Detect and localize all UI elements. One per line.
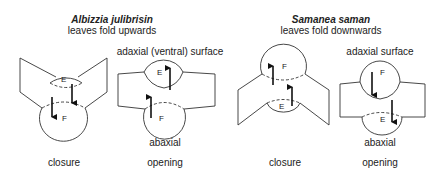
motor-label-e: E xyxy=(380,115,385,124)
motor-label-e: E xyxy=(279,102,284,111)
motor-label-e: E xyxy=(61,75,66,84)
pulvinus-diagram: E F E F F E F E xyxy=(0,0,443,173)
samanea-closure-figure xyxy=(238,44,329,125)
motor-label-f: F xyxy=(159,114,164,123)
albizzia-opening-figure xyxy=(118,60,215,139)
motor-label-f: F xyxy=(282,62,287,71)
motor-label-e: E xyxy=(157,68,162,77)
albizzia-closure-figure xyxy=(20,58,107,141)
motor-label-f: F xyxy=(62,114,67,123)
motor-label-f: F xyxy=(380,68,385,77)
